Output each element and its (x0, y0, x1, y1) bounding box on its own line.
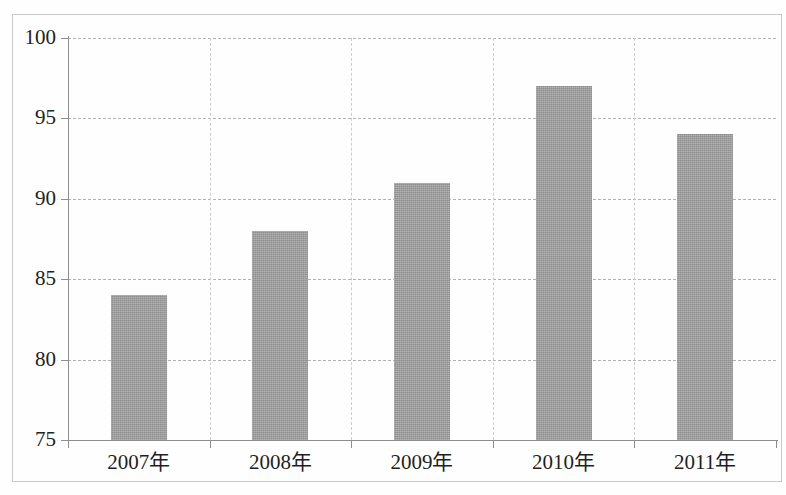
y-tick-label: 95 (0, 107, 56, 128)
y-tick-label: 100 (0, 27, 56, 48)
x-axis-line (66, 440, 778, 441)
x-tick-label: 2007年 (68, 452, 210, 473)
bar (394, 183, 450, 440)
x-tick (634, 441, 635, 448)
x-tick (493, 441, 494, 448)
bar (252, 231, 308, 440)
x-tick-label: 2009年 (351, 452, 493, 473)
x-tick (776, 441, 777, 448)
category-separator (210, 38, 211, 440)
bar (536, 86, 592, 440)
x-tick-label: 2010年 (493, 452, 635, 473)
x-tick-label: 2011年 (634, 452, 776, 473)
x-tick (68, 441, 69, 448)
y-tick (61, 360, 68, 361)
y-tick (61, 199, 68, 200)
gridline (68, 38, 776, 39)
y-tick-label: 90 (0, 188, 56, 209)
x-tick (210, 441, 211, 448)
y-tick-label: 75 (0, 429, 56, 450)
x-tick (351, 441, 352, 448)
gridline (68, 118, 776, 119)
y-tick (61, 38, 68, 39)
y-tick (61, 279, 68, 280)
bar (111, 295, 167, 440)
bar-chart-figure: 7580859095100 2007年2008年2009年2010年2011年 (0, 0, 786, 495)
category-separator (351, 38, 352, 440)
category-separator (493, 38, 494, 440)
y-axis-line (68, 36, 69, 442)
y-tick-label: 85 (0, 268, 56, 289)
x-tick-label: 2008年 (210, 452, 352, 473)
y-tick-label: 80 (0, 349, 56, 370)
y-tick (61, 118, 68, 119)
category-separator (634, 38, 635, 440)
bar (677, 134, 733, 440)
